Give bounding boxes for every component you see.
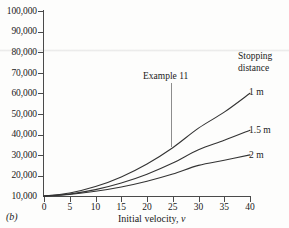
curve-path-1m bbox=[44, 93, 250, 196]
x-axis-title: Initial velocity, v bbox=[118, 213, 185, 224]
legend-header: Stopping distance bbox=[238, 51, 272, 74]
annotation-leader-line bbox=[171, 83, 172, 147]
curve-label-2m: 2 m bbox=[249, 151, 264, 161]
legend-header-line2: distance bbox=[238, 63, 269, 73]
curve-path-1-5m bbox=[44, 130, 250, 196]
x-axis-title-text: Initial velocity, bbox=[118, 213, 178, 224]
x-axis-title-variable: v bbox=[181, 213, 185, 224]
curve-canvas bbox=[0, 0, 289, 228]
curve-label-1m: 1 m bbox=[249, 88, 264, 98]
curve-path-2m bbox=[44, 155, 250, 196]
figure-panel-b: 100,000 90,000 80,000 70,000 60,000 50,0… bbox=[0, 0, 289, 228]
legend-header-line1: Stopping bbox=[238, 51, 272, 61]
annotation-example-11: Example 11 bbox=[143, 71, 188, 81]
panel-label: (b) bbox=[6, 211, 18, 222]
curve-label-1-5m: 1.5 m bbox=[249, 126, 271, 136]
